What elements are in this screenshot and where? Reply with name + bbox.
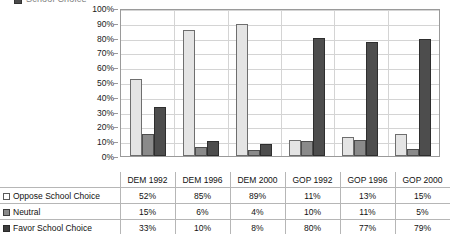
series-name-label: Neutral	[13, 207, 40, 217]
bar-group	[227, 10, 280, 156]
y-axis-tick-mark	[114, 68, 118, 69]
table-header-row: DEM 1992DEM 1996DEM 2000GOP 1992GOP 1996…	[0, 172, 450, 188]
y-axis-tick-mark	[114, 98, 118, 99]
bar[interactable]	[183, 30, 195, 156]
table-cell: 13%	[340, 188, 395, 204]
data-table: DEM 1992DEM 1996DEM 2000GOP 1992GOP 1996…	[0, 172, 450, 234]
bar[interactable]	[236, 24, 248, 156]
bar[interactable]	[407, 149, 419, 156]
table-column-header: GOP 1996	[340, 172, 395, 188]
y-axis-tick-mark	[114, 9, 118, 10]
bar-group	[280, 10, 333, 156]
table-cell: 80%	[285, 220, 340, 235]
table-cell: 10%	[175, 220, 230, 235]
bar[interactable]	[142, 134, 154, 156]
y-axis-tick-label: 80%	[97, 35, 114, 44]
plot-area	[120, 9, 440, 157]
table-cell: 4%	[230, 204, 285, 220]
data-table-region: DEM 1992DEM 1996DEM 2000GOP 1992GOP 1996…	[0, 172, 450, 234]
bar[interactable]	[313, 38, 325, 156]
y-axis-tick-label: 90%	[97, 20, 114, 29]
y-axis-tick-label: 30%	[97, 109, 114, 118]
bar[interactable]	[130, 79, 142, 156]
y-axis-tick-mark	[114, 157, 118, 158]
table-row: Favor School Choice33%10%8%80%77%79%	[0, 220, 450, 235]
y-axis-tick-mark	[114, 53, 118, 54]
bar-group	[121, 10, 174, 156]
plot-region: 100%90%80%70%60%50%40%30%20%10%0%	[0, 4, 450, 172]
bar[interactable]	[207, 141, 219, 156]
bar[interactable]	[154, 107, 166, 156]
bar[interactable]	[342, 137, 354, 156]
series-name-label: Favor School Choice	[13, 223, 92, 233]
table-column-header: DEM 1996	[175, 172, 230, 188]
bar[interactable]	[195, 147, 207, 156]
table-cell: 77%	[340, 220, 395, 235]
y-axis-tick-mark	[114, 113, 118, 114]
bar-group	[386, 10, 439, 156]
table-column-header: DEM 1992	[120, 172, 175, 188]
y-axis-tick-label: 10%	[97, 138, 114, 147]
y-axis-tick-label: 50%	[97, 79, 114, 88]
y-axis-tick-label: 40%	[97, 94, 114, 103]
bar[interactable]	[301, 141, 313, 156]
table-row-label: Favor School Choice	[0, 220, 120, 235]
legend-swatch-icon	[3, 225, 10, 232]
table-cell: 8%	[230, 220, 285, 235]
table-row-label: Neutral	[0, 204, 120, 220]
y-axis-tick-label: 20%	[97, 123, 114, 132]
table-cell: 15%	[395, 188, 450, 204]
table-cell: 85%	[175, 188, 230, 204]
table-corner-cell	[0, 172, 120, 188]
bar[interactable]	[366, 42, 378, 156]
bar[interactable]	[419, 39, 431, 156]
bar-group	[333, 10, 386, 156]
table-cell: 11%	[340, 204, 395, 220]
bar-group	[174, 10, 227, 156]
bar[interactable]	[248, 150, 260, 156]
table-cell: 33%	[120, 220, 175, 235]
table-cell: 15%	[120, 204, 175, 220]
series-name-label: Oppose School Choice	[13, 191, 100, 201]
bar[interactable]	[395, 134, 407, 156]
y-axis-tick-mark	[114, 142, 118, 143]
table-row-label: Oppose School Choice	[0, 188, 120, 204]
table-row: Oppose School Choice52%85%89%11%13%15%	[0, 188, 450, 204]
table-cell: 52%	[120, 188, 175, 204]
table-cell: 79%	[395, 220, 450, 235]
table-column-header: DEM 2000	[230, 172, 285, 188]
chart-screenshot: School Choice 100%90%80%70%60%50%40%30%2…	[0, 0, 450, 234]
bar[interactable]	[354, 140, 366, 156]
y-axis-tick-mark	[114, 24, 118, 25]
table-column-header: GOP 1992	[285, 172, 340, 188]
bar-series-container	[121, 10, 439, 156]
y-axis-tick-label: 100%	[92, 5, 114, 14]
y-axis-tick-mark	[114, 127, 118, 128]
y-axis-tick-mark	[114, 39, 118, 40]
y-axis-tick-label: 60%	[97, 64, 114, 73]
legend-swatch-icon	[3, 193, 10, 200]
y-axis-tick-label: 0%	[102, 153, 114, 162]
y-axis-tick-mark	[114, 83, 118, 84]
legend-swatch-icon	[3, 209, 10, 216]
bar[interactable]	[289, 140, 301, 156]
table-cell: 11%	[285, 188, 340, 204]
table-column-header: GOP 2000	[395, 172, 450, 188]
y-axis-tick-label: 70%	[97, 49, 114, 58]
y-axis: 100%90%80%70%60%50%40%30%20%10%0%	[78, 4, 118, 156]
table-row: Neutral15%6%4%10%11%5%	[0, 204, 450, 220]
table-cell: 10%	[285, 204, 340, 220]
table-cell: 5%	[395, 204, 450, 220]
table-cell: 89%	[230, 188, 285, 204]
bar[interactable]	[260, 144, 272, 156]
table-cell: 6%	[175, 204, 230, 220]
table-body: Oppose School Choice52%85%89%11%13%15%Ne…	[0, 188, 450, 235]
